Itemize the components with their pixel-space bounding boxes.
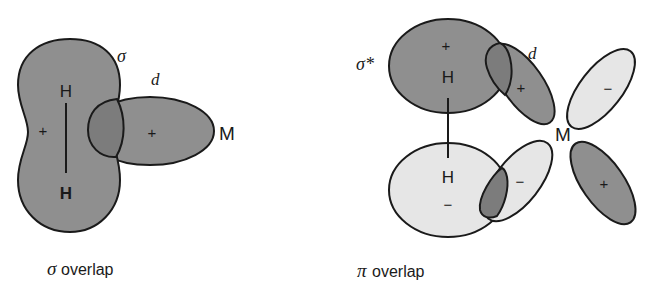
sigma-orbital-label: σ — [117, 46, 127, 66]
sign-h2: + — [39, 122, 48, 139]
sign-top-h: + — [442, 37, 451, 54]
sign-d: + — [148, 124, 157, 141]
sigma-caption: σ overlap — [47, 258, 114, 279]
atom-h-top: H — [60, 82, 72, 101]
sign-d-upper-left: + — [517, 79, 526, 96]
sigma-caption-text: overlap — [61, 261, 114, 278]
sigma-star-label: σ* — [356, 54, 374, 74]
metal-label: M — [219, 123, 235, 144]
atom-h-top-pi: H — [442, 68, 454, 87]
pi-caption-symbol: π — [357, 260, 367, 281]
metal-label-pi: M — [555, 124, 571, 145]
d-orbital-label: d — [151, 70, 160, 89]
pi-overlap-diagram: H H + − + − − + M σ* d — [356, 19, 648, 237]
orbital-overlap-figure: H H + + M σ d H H + − + − − + M — [0, 0, 654, 297]
d-orbital-label-pi: d — [528, 44, 537, 63]
atom-h-bottom: H — [60, 184, 72, 203]
pi-caption: π overlap — [357, 260, 425, 281]
sign-d-upper-right: − — [604, 80, 613, 97]
sign-bottom-h: − — [444, 196, 453, 213]
sigma-caption-symbol: σ — [47, 258, 57, 279]
sigma-overlap-diagram: H H + + M σ d — [18, 39, 235, 232]
pi-caption-text: overlap — [372, 263, 425, 280]
atom-h-bottom-pi: H — [442, 168, 454, 187]
sign-d-lower-left: − — [516, 173, 525, 190]
sign-d-lower-right: + — [600, 175, 609, 192]
